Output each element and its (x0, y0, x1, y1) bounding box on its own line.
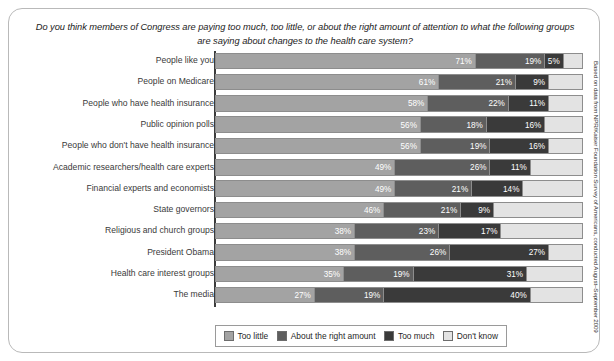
bar-row-label: State governors (28, 204, 214, 214)
bar-segment-value: 56% (401, 141, 417, 150)
bar-segment: 16% (490, 139, 549, 154)
bar-segment (523, 181, 582, 196)
legend-swatch-icon (443, 331, 453, 341)
bar-segment: 21% (395, 181, 472, 196)
bar-segment-value: 49% (375, 163, 391, 172)
bar-segment-value: 19% (470, 141, 486, 150)
legend-label: Don't know (457, 331, 498, 341)
bar-row: Academic researchers/health care experts… (23, 158, 589, 179)
stacked-bar: 46%21%9% (215, 202, 583, 219)
bar-segment (564, 54, 582, 69)
bar-segment-value: 14% (503, 184, 519, 193)
bar-segment (494, 203, 582, 218)
bar-segment (501, 224, 582, 239)
bar-row: Financial experts and economists49%21%14… (23, 179, 589, 200)
bar-segment: 71% (216, 54, 476, 69)
bar-segment: 18% (421, 117, 487, 132)
chart-title: Do you think members of Congress are pay… (31, 21, 579, 48)
stacked-bar: 56%19%16% (215, 138, 583, 155)
bar-segment: 56% (216, 117, 421, 132)
bar-segment-value: 58% (408, 99, 424, 108)
bar-segment: 49% (216, 160, 395, 175)
bar-row-label: People who have health insurance (28, 98, 214, 108)
bar-segment: 22% (428, 96, 509, 111)
bar-segment: 27% (450, 245, 549, 260)
bar-segment: 11% (509, 96, 549, 111)
bar-segment-value: 23% (419, 227, 435, 236)
legend-item: Too little (224, 331, 268, 341)
bar-segment-value: 56% (401, 120, 417, 129)
bar-segment-value: 38% (335, 227, 351, 236)
chart-plot-area: People like you71%19%5%People on Medicar… (23, 51, 589, 311)
bar-segment: 49% (216, 181, 395, 196)
bar-segment-value: 35% (324, 269, 340, 278)
bar-segment-value: 16% (529, 141, 545, 150)
chart-legend: Too littleAbout the right amountToo much… (215, 325, 507, 347)
stacked-bar: 58%22%11% (215, 95, 583, 112)
bar-segment: 9% (461, 203, 494, 218)
stacked-bar: 38%23%17% (215, 223, 583, 240)
stacked-bar: 35%19%31% (215, 266, 583, 283)
bar-segment-value: 49% (375, 184, 391, 193)
bar-segment: 26% (355, 245, 450, 260)
bar-row: State governors46%21%9% (23, 200, 589, 221)
bar-row: People who don't have health insurance56… (23, 136, 589, 157)
bar-segment-value: 27% (529, 248, 545, 257)
stacked-bar: 27%19%40% (215, 287, 583, 304)
bar-segment-value: 21% (441, 205, 457, 214)
bar-segment: 23% (355, 224, 439, 239)
bar-segment-value: 19% (364, 291, 380, 300)
legend-item: About the right amount (277, 331, 375, 341)
bar-segment: 35% (216, 267, 344, 282)
legend-label: About the right amount (291, 331, 376, 341)
bar-row-label: Health care interest groups (28, 268, 214, 278)
bar-segment: 38% (216, 245, 355, 260)
legend-swatch-icon (384, 331, 394, 341)
bar-segment-value: 5% (548, 56, 560, 65)
bar-segment (549, 96, 582, 111)
bar-segment-value: 22% (488, 99, 504, 108)
bar-segment-value: 19% (525, 56, 541, 65)
bar-segment: 56% (216, 139, 421, 154)
legend-label: Too little (238, 331, 269, 341)
legend-swatch-icon (224, 331, 234, 341)
bar-row: People who have health insurance58%22%11… (23, 94, 589, 115)
bar-segment: 46% (216, 203, 384, 218)
bar-segment: 40% (384, 288, 530, 303)
legend-label: Too much (398, 331, 434, 341)
bar-row-label: Public opinion polls (28, 119, 214, 129)
bar-segment: 58% (216, 96, 428, 111)
bar-segment: 19% (476, 54, 546, 69)
bar-segment (531, 160, 582, 175)
stacked-bar: 49%21%14% (215, 180, 583, 197)
bar-segment: 5% (545, 54, 563, 69)
bar-segment: 26% (395, 160, 490, 175)
bar-segment-value: 27% (294, 291, 310, 300)
stacked-bar: 49%26%11% (215, 159, 583, 176)
bar-segment: 16% (487, 117, 546, 132)
bar-row: People like you71%19%5% (23, 51, 589, 72)
bar-segment: 61% (216, 75, 439, 90)
bar-segment-value: 9% (533, 78, 545, 87)
bar-row-label: People like you (28, 55, 214, 65)
bar-row: Public opinion polls56%18%16% (23, 115, 589, 136)
bar-segment-value: 26% (470, 163, 486, 172)
bar-row-label: Academic researchers/health care experts (28, 162, 214, 172)
bar-segment: 19% (421, 139, 491, 154)
bar-segment: 17% (439, 224, 501, 239)
bar-row-label: People who don't have health insurance (28, 140, 214, 150)
bar-segment: 19% (315, 288, 385, 303)
legend-item: Too much (384, 331, 434, 341)
bar-segment-value: 18% (466, 120, 482, 129)
bar-segment: 27% (216, 288, 315, 303)
bar-segment (549, 75, 582, 90)
bar-segment: 11% (490, 160, 530, 175)
legend-item: Don't know (443, 331, 498, 341)
bar-segment-value: 26% (430, 248, 446, 257)
bar-segment-value: 46% (364, 205, 380, 214)
source-note: Based on data from NPR/Kaiser Foundation… (593, 61, 600, 351)
bar-segment-value: 17% (481, 227, 497, 236)
bar-segment: 38% (216, 224, 355, 239)
bar-segment (549, 245, 582, 260)
bar-segment-value: 71% (455, 56, 471, 65)
